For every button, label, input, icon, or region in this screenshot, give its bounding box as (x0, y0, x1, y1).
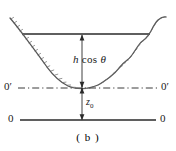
dimension-arrow-z0 (80, 88, 85, 121)
label-z0: z0 (86, 97, 93, 110)
label-datum-prime-right: 0′ (161, 81, 169, 92)
figure-container: h cos θ z0 0′ 0′ 0 0 ( b ) (0, 0, 176, 151)
label-theta-symbol: θ (100, 53, 106, 65)
label-z-subscript: 0 (90, 102, 94, 110)
figure-caption: ( b ) (0, 131, 176, 143)
label-baseline-left: 0 (8, 113, 14, 124)
label-cos-word: cos (79, 53, 101, 65)
diagram-canvas (0, 0, 176, 151)
label-datum-prime-left: 0′ (4, 81, 12, 92)
label-h-cos-theta: h cos θ (73, 54, 106, 65)
label-baseline-right: 0 (160, 113, 166, 124)
